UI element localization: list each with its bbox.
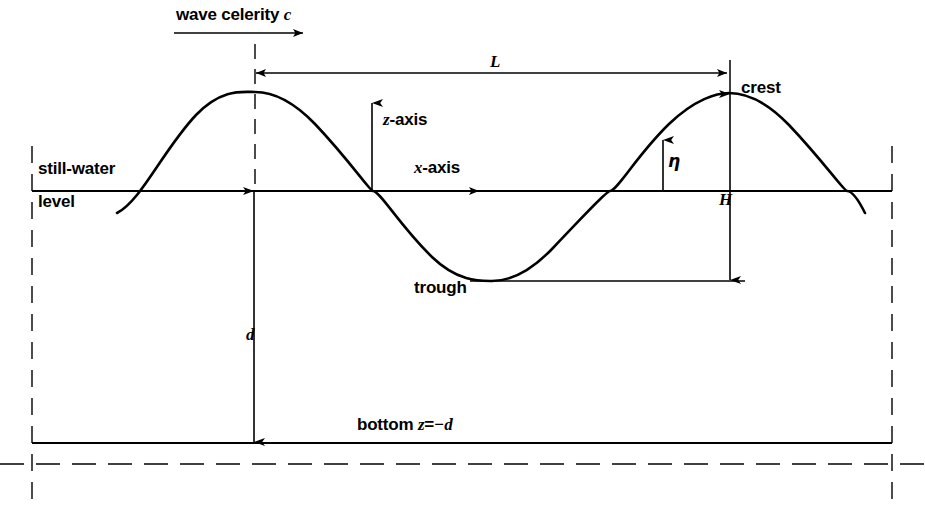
crest-label: crest [741,78,781,97]
wave-height-label: H [719,190,732,209]
water-surface-profile [117,92,865,281]
still-water-level-label-line1: still-water [38,159,115,178]
z-axis-label: z-axis [383,110,427,129]
wavelength-label: L [490,52,500,71]
bottom-text: bottom [357,415,413,434]
trough-label: trough [414,278,467,297]
wave-celerity-symbol: c [284,5,291,24]
bottom-equals: = [424,415,434,434]
bottom-label: bottom z=−d [357,415,453,434]
eta-label: η [668,152,680,171]
x-axis-label: x-axis [414,158,460,177]
water-depth-label: d [246,325,254,344]
still-water-level-label-line2: level [38,192,75,211]
wave-celerity-label: wave celerity c [176,5,291,24]
bottom-value: −d [434,415,452,434]
diagram-canvas [0,0,925,516]
wave-celerity-text: wave celerity [176,5,279,24]
wave-definition-sketch: wave celerity c still-water level z-axis… [0,0,925,516]
